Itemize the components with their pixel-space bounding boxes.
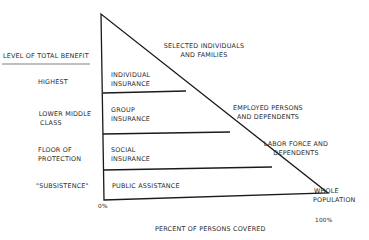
coverage-line: AND FAMILIES (148, 51, 260, 60)
x-axis-start-label: 0% (98, 202, 108, 211)
program-line: GROUP (111, 106, 150, 115)
divider-group-social (103, 132, 230, 134)
program-group-insurance: GROUP INSURANCE (111, 106, 150, 123)
program-line: INSURANCE (111, 115, 150, 124)
coverage-selected-individuals: SELECTED INDIVIDUALS AND FAMILIES (148, 42, 260, 59)
coverage-employed-persons: EMPLOYED PERSONS AND DEPENDENTS (229, 104, 307, 121)
x-axis-title: PERCENT OF PERSONS COVERED (155, 225, 266, 234)
coverage-line: LABOR FORCE AND (256, 140, 336, 149)
program-line: INDIVIDUAL (111, 71, 150, 80)
program-social-insurance: SOCIAL INSURANCE (111, 146, 150, 163)
coverage-line: POPULATION (313, 196, 356, 205)
benefit-level-line: CLASS (36, 119, 94, 128)
benefit-level-line: FLOOR OF (38, 146, 81, 155)
coverage-line: DEPENDENTS (256, 149, 336, 158)
divider-social-public (104, 167, 272, 170)
coverage-labor-force: LABOR FORCE AND DEPENDENTS (256, 140, 336, 157)
program-line: INSURANCE (111, 155, 150, 164)
coverage-line: WHOLE (313, 187, 356, 196)
program-individual-insurance: INDIVIDUAL INSURANCE (111, 71, 150, 88)
benefit-level-line: PROTECTION (38, 155, 81, 164)
coverage-line: SELECTED INDIVIDUALS (148, 42, 260, 51)
program-public-assistance: PUBLIC ASSISTANCE (112, 182, 180, 191)
benefit-axis-title: LEVEL OF TOTAL BENEFIT (3, 52, 89, 61)
benefit-level-floor: FLOOR OF PROTECTION (38, 146, 81, 163)
benefit-level-highest: HIGHEST (38, 78, 68, 87)
benefit-level-subsistence: "SUBSISTENCE" (36, 182, 89, 191)
coverage-line: AND DEPENDENTS (229, 113, 307, 122)
coverage-whole-population: WHOLE POPULATION (313, 187, 356, 204)
coverage-line: EMPLOYED PERSONS (229, 104, 307, 113)
divider-individual-group (103, 91, 186, 93)
benefit-level-lower-middle: LOWER MIDDLE CLASS (36, 110, 94, 127)
program-line: SOCIAL (111, 146, 150, 155)
program-line: INSURANCE (111, 80, 150, 89)
benefit-level-line: LOWER MIDDLE (36, 110, 94, 119)
x-axis-end-label: 100% (315, 216, 332, 225)
